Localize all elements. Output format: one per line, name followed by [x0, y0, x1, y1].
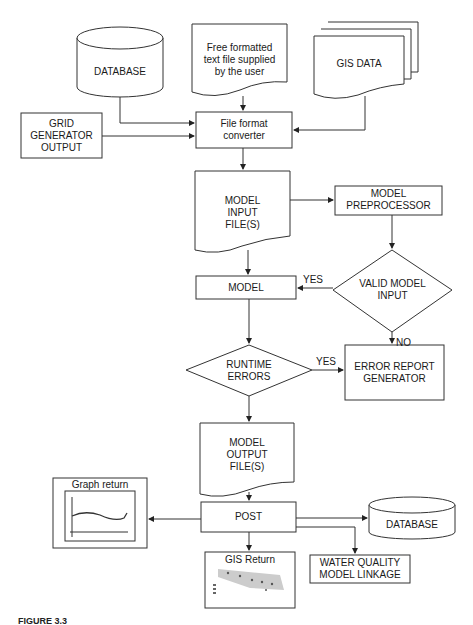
gis-return-label: GIS Return — [205, 554, 295, 566]
valid-input-line-1: VALID MODEL — [340, 278, 445, 290]
grid-generator-label: GRID GENERATOR OUTPUT — [21, 118, 102, 154]
figure-caption: FIGURE 3.3 — [18, 616, 67, 625]
database-bottom-label: DATABASE — [369, 519, 455, 531]
model-label: MODEL — [196, 282, 296, 294]
water-quality-label: WATER QUALITY MODEL LINKAGE — [310, 557, 410, 581]
graph-return-label: Graph return — [53, 479, 147, 491]
post-label: POST — [201, 511, 296, 523]
error-report-line-2: GENERATOR — [345, 373, 444, 385]
database-top-shape — [77, 27, 163, 97]
model-input-label: MODEL INPUT FILE(S) — [195, 195, 290, 231]
model-input-line-3: FILE(S) — [195, 219, 290, 231]
model-input-line-1: MODEL — [195, 195, 290, 207]
valid-input-label: VALID MODEL INPUT — [340, 278, 445, 302]
flowchart-canvas — [0, 0, 473, 625]
error-report-line-1: ERROR REPORT — [345, 361, 444, 373]
grid-generator-line-1: GRID — [21, 118, 102, 130]
runtime-errors-line-1: RUNTIME — [200, 359, 298, 371]
preprocessor-label: MODEL PREPROCESSOR — [335, 188, 442, 212]
model-output-line-1: MODEL — [200, 437, 294, 449]
edge-post-to-waterquality — [296, 527, 355, 553]
grid-generator-line-2: GENERATOR — [21, 130, 102, 142]
model-output-line-2: OUTPUT — [200, 449, 294, 461]
valid-no-label: NO — [396, 337, 416, 349]
free-text-line-3: by the user — [192, 66, 287, 78]
database-top-label: DATABASE — [77, 66, 163, 78]
file-converter-label: File format converter — [196, 118, 292, 142]
database-bottom-shape — [369, 497, 455, 539]
model-input-line-2: INPUT — [195, 207, 290, 219]
error-report-label: ERROR REPORT GENERATOR — [345, 361, 444, 385]
preprocessor-line-1: MODEL — [335, 188, 442, 200]
water-quality-line-1: WATER QUALITY — [310, 557, 410, 569]
grid-generator-line-3: OUTPUT — [21, 142, 102, 154]
edge-database-to-converter — [120, 97, 194, 123]
valid-input-line-2: INPUT — [340, 290, 445, 302]
runtime-errors-label: RUNTIME ERRORS — [200, 359, 298, 383]
valid-yes-label: YES — [301, 274, 325, 286]
model-output-label: MODEL OUTPUT FILE(S) — [200, 437, 294, 473]
runtime-errors-line-2: ERRORS — [200, 371, 298, 383]
file-converter-line-1: File format — [196, 118, 292, 130]
preprocessor-line-2: PREPROCESSOR — [335, 200, 442, 212]
model-output-line-3: FILE(S) — [200, 461, 294, 473]
free-text-label: Free formatted text file supplied by the… — [192, 42, 287, 78]
file-converter-line-2: converter — [196, 130, 292, 142]
free-text-line-2: text file supplied — [192, 54, 287, 66]
edge-gis-to-converter — [294, 96, 365, 130]
free-text-line-1: Free formatted — [192, 42, 287, 54]
runtime-yes-label: YES — [314, 356, 338, 368]
gis-data-label: GIS DATA — [314, 58, 404, 70]
water-quality-line-2: MODEL LINKAGE — [310, 569, 410, 581]
